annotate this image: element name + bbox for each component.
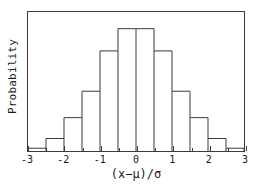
plot-frame <box>27 11 245 152</box>
y-axis-label-text: Probability <box>7 38 20 113</box>
y-axis-label: Probability <box>0 0 26 152</box>
x-axis-minor-tick-mark <box>83 148 84 151</box>
x-axis-tick-mark <box>64 146 65 151</box>
x-axis-tick-label: 3 <box>242 153 248 167</box>
x-axis-tick-label: -1 <box>94 153 106 167</box>
histogram-figure: Probability -3-2-10123 (x−μ)/σ <box>0 0 262 189</box>
x-axis-minor-tick-mark <box>46 148 47 151</box>
x-axis-minor-tick-mark <box>119 148 120 151</box>
x-axis-minor-tick-mark <box>228 148 229 151</box>
x-axis-tick-mark <box>210 146 211 151</box>
x-axis-minor-tick-mark <box>155 148 156 151</box>
x-axis-tick-mark <box>28 146 29 151</box>
x-axis-tick-label: -3 <box>21 153 33 167</box>
x-axis-minor-tick-mark <box>192 148 193 151</box>
plot-area <box>28 12 244 151</box>
x-axis-tick-mark <box>246 146 247 151</box>
x-axis-tick-label: 0 <box>133 153 139 167</box>
x-axis-tick-labels: -3-2-10123 <box>27 153 245 168</box>
x-axis-tick-label: -2 <box>57 153 69 167</box>
x-axis-tick-label: 1 <box>169 153 175 167</box>
x-axis-label: (x−μ)/σ <box>27 167 245 181</box>
x-axis-tick-mark <box>101 146 102 151</box>
x-axis-tick-mark <box>173 146 174 151</box>
x-axis-tick-label: 2 <box>206 153 212 167</box>
x-axis-tick-mark <box>137 146 138 151</box>
histogram-bars <box>28 12 244 151</box>
